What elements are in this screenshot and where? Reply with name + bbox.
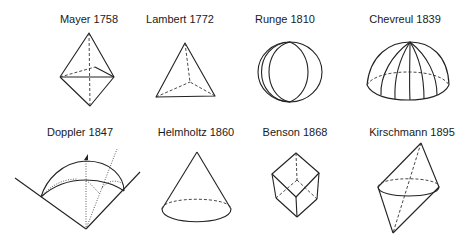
mayer-bipyramid-figure bbox=[60, 33, 114, 106]
kirschmann-double-cone-figure bbox=[378, 143, 439, 233]
doppler-figure bbox=[15, 149, 140, 229]
color-solids-diagram bbox=[0, 0, 471, 243]
benson-cube-figure bbox=[272, 153, 319, 217]
runge-sphere-figure bbox=[258, 42, 322, 102]
helmholtz-cone-figure bbox=[162, 152, 231, 222]
arrow-icon bbox=[84, 154, 88, 160]
lambert-tetrahedron-figure bbox=[156, 43, 215, 97]
chevreul-hemisphere-figure bbox=[367, 42, 449, 100]
